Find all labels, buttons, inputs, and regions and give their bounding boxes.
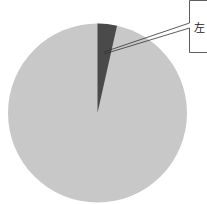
pie-chart: 左 — [0, 0, 207, 204]
callout-line-2: 左 — [194, 22, 205, 35]
